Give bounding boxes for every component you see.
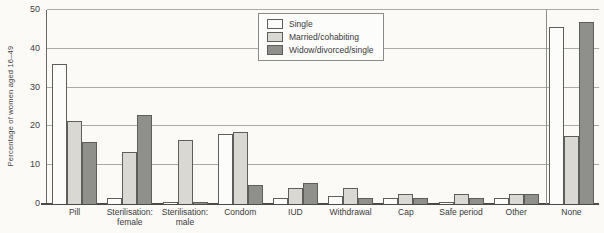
bar-single-safe-period: [439, 202, 454, 204]
legend-row-single: Single: [267, 19, 374, 29]
bar-group-pill: Pill: [47, 10, 102, 204]
legend-swatch-widow-divorced-single: [267, 45, 283, 55]
bar-married-cohabiting-cap: [398, 194, 413, 204]
bar-single-pill: [52, 64, 67, 204]
y-axis-title: Percentage of women aged 16–49: [6, 46, 15, 167]
bar-single-other: [494, 198, 509, 204]
legend-label-widow-divorced-single: Widow/divorced/single: [289, 46, 374, 55]
bar-married-cohabiting-iud: [288, 188, 303, 204]
legend: Single Married/cohabiting Widow/divorced…: [258, 13, 384, 61]
legend-swatch-married-cohabiting: [267, 32, 283, 42]
bar-single-iud: [273, 198, 288, 204]
bar-group-sterilisation-female: Sterilisation: female: [102, 10, 157, 204]
y-tick-label-40: 40: [16, 44, 40, 53]
bar-widow-divorced-single-other: [524, 194, 539, 204]
bar-widow-divorced-single-sterilisation-female: [137, 115, 152, 204]
bar-widow-divorced-single-none: [579, 22, 594, 204]
bar-married-cohabiting-sterilisation-male: [178, 140, 193, 204]
y-tick-label-50: 50: [16, 5, 40, 14]
bar-married-cohabiting-none: [564, 136, 579, 204]
y-tick-label-0: 0: [16, 199, 40, 208]
legend-row-widow-divorced-single: Widow/divorced/single: [267, 45, 374, 55]
legend-label-single: Single: [289, 20, 313, 29]
bar-married-cohabiting-pill: [67, 121, 82, 204]
legend-swatch-single: [267, 19, 283, 29]
legend-row-married-cohabiting: Married/cohabiting: [267, 32, 374, 42]
contraception-bar-chart: Percentage of women aged 16–49 010203040…: [0, 0, 604, 233]
bar-married-cohabiting-safe-period: [454, 194, 469, 204]
none-separator-line: [546, 10, 547, 204]
bar-widow-divorced-single-pill: [82, 142, 97, 204]
bar-married-cohabiting-other: [509, 194, 524, 204]
bar-single-withdrawal: [328, 196, 343, 204]
bar-single-cap: [383, 198, 398, 204]
y-tick-label-30: 30: [16, 83, 40, 92]
bar-single-sterilisation-female: [107, 198, 122, 204]
bar-widow-divorced-single-safe-period: [469, 198, 484, 204]
bar-single-sterilisation-male: [163, 202, 178, 204]
bar-widow-divorced-single-iud: [303, 183, 318, 204]
bar-group-sterilisation-male: Sterilisation: male: [157, 10, 212, 204]
bar-group-none: None: [544, 10, 599, 204]
bar-married-cohabiting-sterilisation-female: [122, 152, 137, 204]
bar-widow-divorced-single-sterilisation-male: [193, 202, 208, 204]
bar-group-other: Other: [489, 10, 544, 204]
bar-widow-divorced-single-condom: [248, 185, 263, 204]
y-tick-label-10: 10: [16, 160, 40, 169]
legend-label-married-cohabiting: Married/cohabiting: [289, 33, 359, 42]
x-category-label-none: None: [538, 208, 604, 218]
bar-married-cohabiting-condom: [233, 132, 248, 204]
y-tick-label-20: 20: [16, 121, 40, 130]
bar-single-none: [549, 27, 564, 204]
bar-widow-divorced-single-cap: [413, 198, 428, 204]
bar-group-cap: Cap: [378, 10, 433, 204]
bar-single-condom: [218, 134, 233, 204]
bar-married-cohabiting-withdrawal: [343, 188, 358, 204]
bar-widow-divorced-single-withdrawal: [358, 198, 373, 204]
bar-group-safe-period: Safe period: [433, 10, 488, 204]
